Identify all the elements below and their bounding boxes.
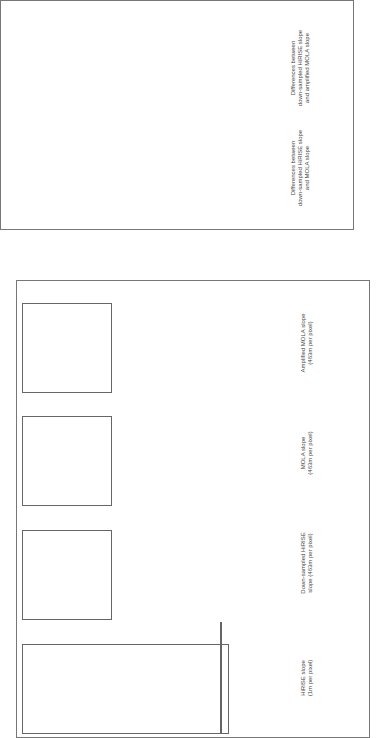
caption-mola: MOLA slope (463m per pixel) — [300, 398, 314, 508]
caption-amplified: Amplified MOLA slope (463m per pixel) — [300, 288, 314, 398]
figure: HiRISE slope (1m per pixel) Down-sampled… — [0, 0, 384, 738]
hirise-wide-panel — [22, 644, 229, 734]
hirise-square-panel — [220, 622, 222, 734]
caption-diff1: Differences between down-sampled HiRISE … — [290, 118, 311, 218]
caption-diff2: Differences between down-sampled HiRISE … — [290, 18, 311, 118]
caption-downsampled: Down-sampled HiRISE slope (463m per pixe… — [300, 508, 314, 618]
downsampled-wide-panel — [22, 530, 112, 620]
amplified-wide-panel — [22, 303, 112, 393]
mola-wide-panel — [22, 416, 112, 506]
caption-hirise: HiRISE slope (1m per pixel) — [300, 628, 314, 728]
